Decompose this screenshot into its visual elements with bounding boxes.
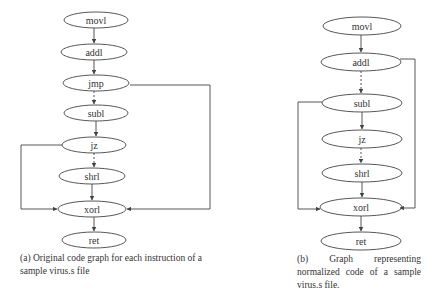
node-b-movl-label: movl: [352, 21, 373, 32]
caption-a: (a) Original code graph for each instruc…: [20, 252, 220, 278]
node-a-subl-label: subl: [88, 108, 105, 119]
graph-b: [298, 17, 415, 250]
caption-b: (b) Graph representing normalized code o…: [297, 253, 421, 291]
edge-b-addl-xorl: [400, 59, 415, 208]
node-a-addl-label: addl: [85, 47, 102, 58]
node-b-subl-label: subl: [354, 98, 371, 109]
node-b-addl-label: addl: [352, 57, 369, 68]
node-b-ret-label: ret: [356, 236, 367, 247]
edge-a-jz-xorl: [21, 145, 62, 209]
node-a-ret-label: ret: [89, 235, 100, 246]
graph-a: [21, 12, 210, 248]
node-b-jz-label: jz: [357, 134, 366, 145]
node-b-shrl-label: shrl: [355, 168, 370, 179]
node-a-jz-label: jz: [89, 140, 98, 151]
diagram-canvas: movl addl jmp subl jz shrl xorl ret: [0, 0, 434, 291]
edge-a-jmp-xorl: [127, 85, 210, 209]
edge-b-subl-xorl: [298, 102, 322, 209]
node-a-shrl-label: shrl: [85, 171, 100, 182]
node-a-movl-label: movl: [86, 15, 107, 26]
node-a-jmp-label: jmp: [87, 78, 104, 89]
node-a-xorl-label: xorl: [84, 204, 100, 215]
node-b-xorl-label: xorl: [353, 202, 369, 213]
